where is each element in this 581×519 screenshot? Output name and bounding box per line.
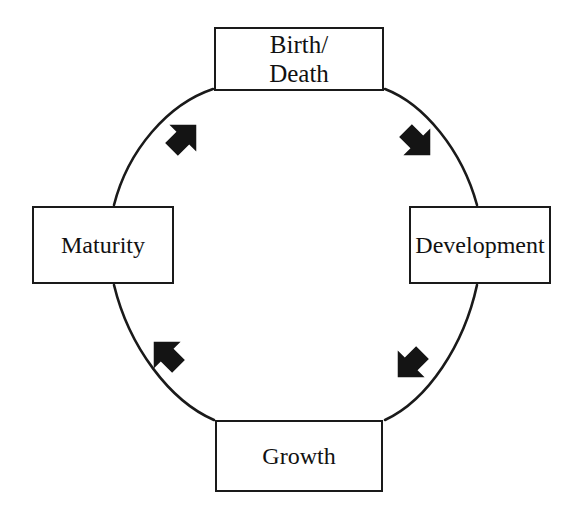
node-birth-death-label: Birth/ Death — [265, 30, 333, 89]
node-development: Development — [409, 206, 551, 284]
node-development-label: Development — [411, 231, 548, 259]
arc-maturity-to-birth — [114, 89, 213, 205]
node-growth: Growth — [215, 420, 383, 492]
node-maturity-label: Maturity — [57, 231, 149, 259]
node-maturity: Maturity — [32, 206, 174, 284]
arc-birth-to-development — [385, 89, 477, 205]
arrow-development-to-growth — [384, 339, 436, 391]
node-birth-death: Birth/ Death — [214, 27, 384, 91]
arrow-growth-to-maturity — [140, 328, 192, 380]
node-growth-label: Growth — [258, 442, 339, 470]
cycle-diagram: Birth/ Death Development Growth Maturity — [0, 0, 581, 519]
arrow-birth-to-development — [392, 117, 444, 169]
